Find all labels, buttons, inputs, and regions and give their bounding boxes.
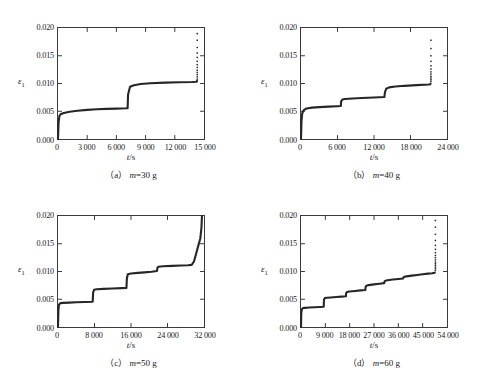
x-tick-label: 12 000: [165, 143, 186, 152]
failure-point: [435, 265, 436, 266]
x-tick-label: 18 000: [400, 143, 421, 152]
x-tick-label: 32 000: [194, 331, 215, 340]
y-axis-title: ε1: [18, 76, 25, 88]
failure-point: [196, 67, 197, 68]
curve-a: [58, 81, 197, 139]
y-tick-label: 0.020: [12, 211, 54, 220]
x-axis-unit: /s: [372, 152, 378, 162]
failure-point: [435, 220, 436, 221]
caption-value: =40 g: [379, 170, 400, 180]
failure-point: [430, 68, 431, 69]
caption-index: （a）: [105, 170, 129, 180]
panel-caption-a: （a） m=30 g: [105, 168, 157, 181]
failure-point: [196, 78, 197, 79]
y-tick-label: 0.005: [12, 107, 54, 116]
failure-point: [430, 61, 431, 62]
failure-point: [196, 47, 197, 48]
failure-point: [196, 76, 197, 77]
x-tick-label: 9 000: [316, 331, 333, 340]
x-tick-label: 12 000: [363, 143, 384, 152]
x-axis-unit: /s: [129, 340, 135, 350]
y-tick-label: 0.000: [255, 324, 297, 333]
caption-index: （d）: [348, 358, 373, 368]
y-tick-label: 0.020: [12, 23, 54, 32]
x-tick-label: 54 000: [437, 331, 458, 340]
x-tick-label: 3 000: [78, 143, 95, 152]
x-axis-title: t/s: [370, 340, 379, 350]
y-tick-label: 0.005: [12, 295, 54, 304]
x-tick-label: 0: [55, 331, 59, 340]
y-axis-title: ε1: [18, 264, 25, 276]
failure-point: [430, 65, 431, 66]
failure-point: [430, 48, 431, 49]
x-tick-label: 0: [55, 143, 59, 152]
y-axis-title: ε1: [261, 264, 268, 276]
panel-a: 0.0000.0050.0100.0150.02003 0006 0009 00…: [0, 0, 243, 188]
caption-value: =30 g: [136, 170, 157, 180]
failure-point: [196, 64, 197, 65]
failure-point: [196, 52, 197, 53]
x-tick-label: 6 000: [107, 143, 124, 152]
failure-point: [196, 72, 197, 73]
failure-point: [430, 79, 431, 80]
x-axis-title: t/s: [127, 152, 136, 162]
panel-c: 0.0000.0050.0100.0150.02008 00016 00024 …: [0, 188, 243, 376]
failure-point: [435, 263, 436, 264]
failure-point: [435, 261, 436, 262]
y-tick-label: 0.015: [255, 239, 297, 248]
failure-point: [430, 76, 431, 77]
failure-point: [196, 74, 197, 75]
x-tick-label: 18 000: [339, 331, 360, 340]
y-tick-label: 0.015: [255, 51, 297, 60]
failure-point: [435, 249, 436, 250]
failure-point: [196, 40, 197, 41]
failure-point: [435, 266, 436, 267]
failure-point: [196, 69, 197, 70]
y-axis-subscript: 1: [22, 81, 25, 88]
caption-value: =50 g: [136, 358, 157, 368]
x-tick-label: 15 000: [194, 143, 215, 152]
failure-point: [435, 245, 436, 246]
failure-point: [435, 257, 436, 258]
failure-point: [435, 268, 436, 269]
panel-caption-d: （d） m=60 g: [348, 356, 400, 369]
y-tick-label: 0.020: [255, 211, 297, 220]
y-axis-title: ε1: [261, 76, 268, 88]
y-tick-label: 0.000: [12, 136, 54, 145]
panel-caption-c: （c） m=50 g: [105, 356, 157, 369]
y-tick-label: 0.000: [12, 324, 54, 333]
caption-index: （b）: [348, 170, 373, 180]
curve-d: [301, 273, 435, 327]
plot-area-c: [57, 215, 205, 328]
failure-point: [430, 71, 431, 72]
failure-point: [435, 270, 436, 271]
y-tick-label: 0.020: [255, 23, 297, 32]
creep-strain-figure: 0.0000.0050.0100.0150.02003 0006 0009 00…: [0, 0, 486, 376]
y-tick-label: 0.005: [255, 295, 297, 304]
failure-point: [435, 252, 436, 253]
failure-point: [196, 33, 197, 34]
x-tick-label: 0: [298, 143, 302, 152]
x-axis-unit: /s: [129, 152, 135, 162]
x-tick-label: 0: [298, 331, 302, 340]
x-tick-label: 27 000: [363, 331, 384, 340]
y-axis-subscript: 1: [265, 81, 268, 88]
y-axis-subscript: 1: [265, 269, 268, 276]
x-axis-title: t/s: [127, 340, 136, 350]
x-tick-label: 8 000: [85, 331, 102, 340]
x-tick-label: 36 000: [388, 331, 409, 340]
x-tick-label: 24 000: [437, 143, 458, 152]
failure-point: [435, 226, 436, 227]
panel-b: 0.0000.0050.0100.0150.02006 00012 00018 …: [243, 0, 486, 188]
failure-point: [430, 81, 431, 82]
curve-c: [58, 216, 202, 327]
x-tick-label: 45 000: [413, 331, 434, 340]
plot-area-a: [57, 27, 205, 140]
failure-point: [196, 57, 197, 58]
y-axis-subscript: 1: [22, 269, 25, 276]
x-axis-title: t/s: [370, 152, 379, 162]
failure-point: [430, 77, 431, 78]
failure-point: [435, 255, 436, 256]
caption-value: =60 g: [379, 358, 400, 368]
plot-area-d: [300, 215, 448, 328]
